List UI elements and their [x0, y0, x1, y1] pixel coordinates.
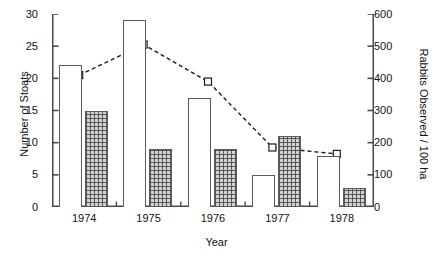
- bar-stoats-hatched: [214, 149, 237, 207]
- bar-stoats-open: [317, 156, 340, 207]
- bar-stoats-hatched: [149, 149, 172, 207]
- bar-stoats-hatched: [278, 136, 301, 207]
- x-axis-tick-label: 1976: [183, 213, 243, 224]
- x-axis-ticks: 19741975197619771978: [0, 213, 433, 233]
- bar-stoats-hatched: [343, 188, 366, 207]
- y-axis-right-tick-label: 200: [374, 137, 400, 148]
- y-axis-left-tick-label: 30: [16, 9, 38, 20]
- rabbits-marker: [269, 144, 276, 151]
- y-axis-right-tick-label: 100: [374, 169, 400, 180]
- rabbits-marker: [205, 78, 212, 85]
- y-axis-right-title: Rabbits Observed / 100 ha: [418, 39, 430, 189]
- bar-stoats-hatched: [85, 111, 108, 208]
- x-axis-tick-label: 1975: [119, 213, 179, 224]
- y-axis-right-tick-label: 500: [374, 41, 400, 52]
- bar-stoats-open: [123, 20, 146, 207]
- x-axis-tick-label: 1978: [312, 213, 372, 224]
- y-axis-right-tick-label: 400: [374, 73, 400, 84]
- x-axis-tick-label: 1974: [54, 213, 114, 224]
- y-axis-right-tick-label: 0: [374, 202, 400, 213]
- plot-area: [52, 14, 374, 207]
- y-axis-left-tick-label: 0: [16, 202, 38, 213]
- bar-stoats-open: [188, 98, 211, 207]
- y-axis-right-tick-label: 600: [374, 9, 400, 20]
- chart-container: 302520151050 6005004003002001000 1974197…: [0, 0, 433, 259]
- bar-stoats-open: [252, 175, 275, 207]
- y-axis-left-title: Number of Stoats: [18, 54, 30, 174]
- y-axis-right-tick-label: 300: [374, 105, 400, 116]
- y-axis-left-tick-label: 25: [16, 41, 38, 52]
- x-axis-tick-label: 1977: [247, 213, 307, 224]
- x-axis-title: Year: [0, 236, 433, 248]
- bar-stoats-open: [59, 65, 82, 207]
